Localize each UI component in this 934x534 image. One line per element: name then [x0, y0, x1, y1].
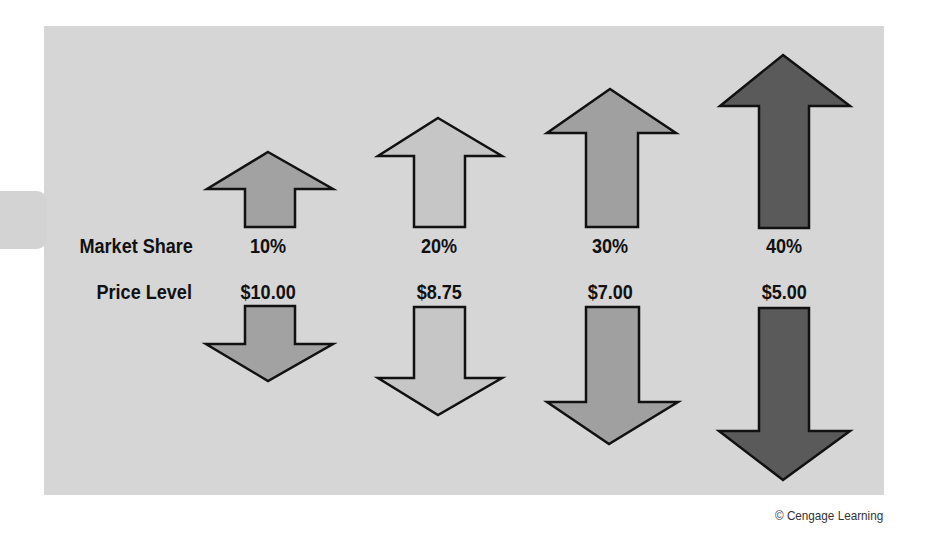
up-arrow-20	[378, 118, 502, 227]
copyright-credit: © Cengage Learning	[763, 508, 883, 523]
price-level-10: $10.00	[208, 281, 328, 302]
market-share-10: 10%	[208, 235, 328, 256]
market-share-30: 30%	[550, 235, 670, 256]
price-level-40: $5.00	[724, 281, 844, 302]
down-arrow-30	[547, 307, 678, 444]
market-share-20: 20%	[379, 235, 499, 256]
market-share-40: 40%	[724, 235, 844, 256]
price-level-label: Price Level	[40, 281, 192, 302]
up-arrow-40	[720, 55, 850, 228]
down-arrow-40	[719, 308, 850, 480]
market-share-label: Market Share	[40, 235, 193, 256]
down-arrow-20	[378, 307, 502, 415]
down-arrow-10	[206, 306, 333, 381]
price-level-20: $8.75	[379, 281, 499, 302]
arrows-layer	[0, 0, 934, 534]
up-arrow-30	[547, 89, 676, 227]
up-arrow-10	[207, 152, 333, 227]
price-level-30: $7.00	[550, 281, 670, 302]
